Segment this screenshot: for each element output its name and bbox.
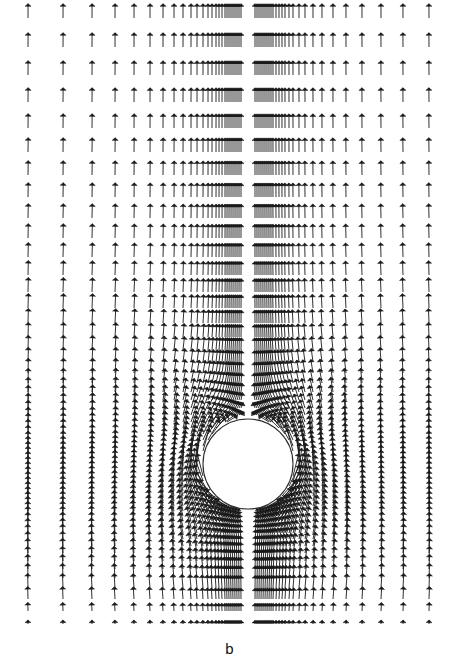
cylinder-obstacle [203, 419, 293, 509]
panel-label: b [0, 641, 459, 656]
figure-panel: b [0, 0, 459, 659]
cylinder-circle [203, 419, 293, 509]
vector-field-plot [0, 0, 459, 659]
